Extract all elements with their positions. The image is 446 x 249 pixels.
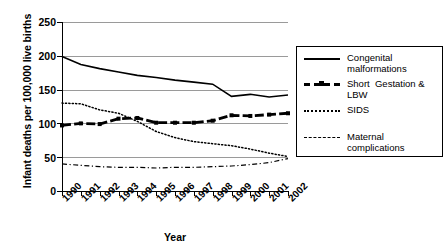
solid-line-icon [302, 53, 342, 65]
plot-area [62, 22, 288, 191]
chart-legend: Congenital malformations Short Gestation… [296, 46, 443, 157]
y-tick-label-200: 200 [22, 50, 56, 62]
legend-item-maternal-complications: Maternal complications [302, 132, 442, 153]
legend-item-sids: SIDS [302, 105, 369, 117]
y-tick-label-50: 50 [22, 152, 56, 164]
y-tick-label-150: 150 [22, 84, 56, 96]
legend-label-maternal-complications: Maternal complications [347, 132, 442, 153]
legend-label-short-gestation-lbw: Short Gestation & LBW [347, 79, 442, 100]
thick-dashed-square-marker-icon [302, 79, 342, 91]
dash-dot-line-icon [302, 132, 342, 144]
y-tick-label-0: 0 [22, 185, 56, 197]
y-axis-title: Infant deaths per 100,000 live births [21, 6, 33, 196]
legend-label-sids: SIDS [347, 105, 369, 116]
y-tick-label-100: 100 [22, 118, 56, 130]
legend-item-congenital-malformations: Congenital malformations [302, 53, 407, 74]
x-tick-label-2002: 2002 [286, 180, 310, 204]
legend-label-congenital-malformations: Congenital malformations [347, 53, 407, 74]
infant-mortality-line-chart: Infant deaths per 100,000 live births 25… [0, 0, 446, 249]
x-axis-title: Year [62, 231, 288, 243]
legend-item-short-gestation-lbw: Short Gestation & LBW [302, 79, 442, 100]
dotted-line-icon [302, 105, 342, 117]
y-tick-label-250: 250 [22, 16, 56, 28]
